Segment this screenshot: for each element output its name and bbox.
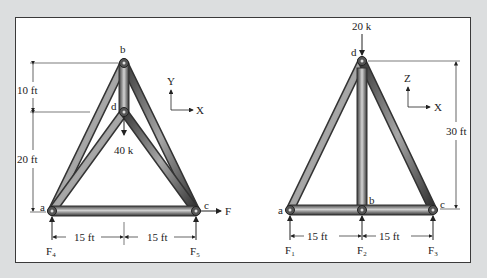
- node-a-label: a: [40, 202, 45, 213]
- axis-x-label: X: [434, 102, 442, 113]
- dim-15ft-right: 15 ft: [147, 232, 167, 243]
- node-c-label: c: [204, 200, 209, 211]
- reaction-f2: F2: [357, 245, 367, 258]
- reaction-f3: F3: [428, 245, 438, 258]
- node-a-label: a: [278, 205, 283, 216]
- dim-10ft: 10 ft: [17, 85, 37, 96]
- dim-20ft: 20 ft: [17, 154, 37, 165]
- node-c-label: c: [440, 199, 445, 210]
- dim-30ft: 30 ft: [446, 126, 466, 137]
- dim-15ft-left: 15 ft: [74, 232, 94, 243]
- right-truss: [286, 34, 461, 240]
- axis-x-label: X: [196, 105, 204, 116]
- node-b-label: b: [120, 44, 126, 55]
- node-d-label: d: [111, 101, 117, 112]
- dim-15ft-left: 15 ft: [307, 231, 327, 242]
- load-label: 40 k: [114, 145, 133, 156]
- node-b-label: b: [369, 195, 375, 206]
- node-d-label: d: [351, 47, 357, 58]
- axis-z-label: Z: [404, 73, 411, 84]
- load-20k-label: 20 k: [352, 21, 371, 32]
- dim-15ft-right: 15 ft: [379, 231, 399, 242]
- reaction-f5: F5: [190, 246, 200, 259]
- axis-y-label: Y: [167, 76, 175, 87]
- reaction-f4: F4: [46, 246, 56, 259]
- reaction-f1: F1: [285, 245, 295, 258]
- force-f-label: F: [225, 206, 231, 217]
